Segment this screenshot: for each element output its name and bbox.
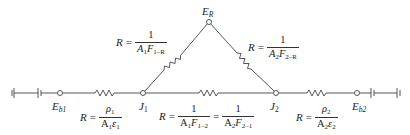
wire-j1-r1r bbox=[145, 70, 164, 91]
denominator: A2F2–R bbox=[267, 47, 299, 61]
label-j1: J1 bbox=[139, 101, 148, 114]
node-eb2-icon bbox=[355, 91, 360, 96]
den2-b-sub: 2–1 bbox=[242, 122, 253, 130]
label-eb1: Eb1 bbox=[52, 101, 66, 114]
wire-er-r2r bbox=[211, 24, 237, 53]
denominator: A1ε1 bbox=[99, 117, 122, 131]
fraction: 1 A2F2–R bbox=[267, 35, 299, 61]
resistor-one-two-icon bbox=[199, 90, 218, 96]
numerator: ρ1 bbox=[104, 104, 117, 117]
battery-right-icon bbox=[360, 88, 401, 98]
fraction: ρ1 A1ε1 bbox=[99, 104, 122, 131]
wire-r2r-j2 bbox=[251, 69, 274, 91]
node-eb1-icon bbox=[58, 91, 63, 96]
den-a: A bbox=[317, 118, 325, 129]
denominator: A2ε2 bbox=[315, 117, 338, 131]
den-a: A bbox=[180, 117, 188, 128]
equation-one-R: R = 1 A1F1–R bbox=[116, 30, 167, 56]
denominator: A1F1–2 bbox=[178, 116, 210, 130]
eq-lhs: R bbox=[248, 42, 255, 53]
fraction-1: 1 A1F1–2 bbox=[178, 104, 210, 130]
eq-sign-2: = bbox=[213, 111, 219, 122]
fraction: ρ2 A2ε2 bbox=[315, 104, 338, 131]
eq-sign: = bbox=[258, 42, 264, 53]
label-er: ER bbox=[202, 6, 213, 19]
label-eb2-sub: b2 bbox=[359, 105, 367, 114]
label-j1-sub: 1 bbox=[144, 105, 148, 114]
equation-surface2: R = ρ2 A2ε2 bbox=[296, 104, 338, 131]
den-b-sub: 2–R bbox=[285, 53, 297, 61]
equation-two-R: R = 1 A2F2–R bbox=[248, 35, 299, 61]
label-eb1-main: E bbox=[52, 100, 59, 112]
label-j2-sub: 2 bbox=[275, 105, 279, 114]
eq-lhs: R bbox=[80, 112, 87, 123]
label-j2: J2 bbox=[270, 101, 279, 114]
numerator-2: 1 bbox=[234, 104, 243, 116]
fraction: 1 A1F1–R bbox=[135, 30, 167, 56]
node-er-icon bbox=[207, 20, 212, 25]
resistor-surface1-icon bbox=[95, 90, 114, 96]
den-b-sub: 1–2 bbox=[197, 122, 208, 130]
label-eb2: Eb2 bbox=[352, 101, 366, 114]
denominator-2: A2F2–1 bbox=[222, 116, 254, 130]
numerator: 1 bbox=[278, 35, 287, 47]
eq-sign: = bbox=[169, 111, 175, 122]
eq-sign: = bbox=[90, 112, 96, 123]
den2-a: A bbox=[224, 117, 232, 128]
den-b-sub: 1–R bbox=[153, 48, 165, 56]
num-sub: 2 bbox=[327, 108, 331, 116]
den-b-sub: 2 bbox=[332, 123, 336, 131]
eq-lhs: R bbox=[116, 37, 123, 48]
label-eb2-main: E bbox=[352, 100, 359, 112]
eq-lhs: R bbox=[296, 112, 303, 123]
eq-sign: = bbox=[306, 112, 312, 123]
equation-one-two: R = 1 A1F1–2 = 1 A2F2–1 bbox=[159, 104, 254, 130]
eq-lhs: R bbox=[159, 111, 166, 122]
den-a: A bbox=[101, 118, 109, 129]
numerator: 1 bbox=[189, 104, 198, 116]
node-j1-icon bbox=[141, 91, 146, 96]
label-eb1-sub: b1 bbox=[59, 105, 67, 114]
equation-surface1: R = ρ1 A1ε1 bbox=[80, 104, 122, 131]
label-er-main: E bbox=[202, 5, 209, 17]
wire-r1r-er bbox=[181, 24, 208, 56]
denominator: A1F1–R bbox=[135, 42, 167, 56]
label-er-sub: R bbox=[209, 10, 214, 19]
resistor-one-R-icon bbox=[164, 56, 181, 71]
eq-sign: = bbox=[126, 37, 132, 48]
numerator: ρ2 bbox=[320, 104, 333, 117]
node-j2-icon bbox=[274, 91, 279, 96]
resistor-surface2-icon bbox=[307, 90, 326, 96]
fraction-2: 1 A2F2–1 bbox=[222, 104, 254, 130]
battery-left-icon bbox=[12, 88, 58, 98]
den-b-sub: 1 bbox=[116, 123, 120, 131]
num-sub: 1 bbox=[111, 108, 115, 116]
numerator: 1 bbox=[146, 30, 155, 42]
